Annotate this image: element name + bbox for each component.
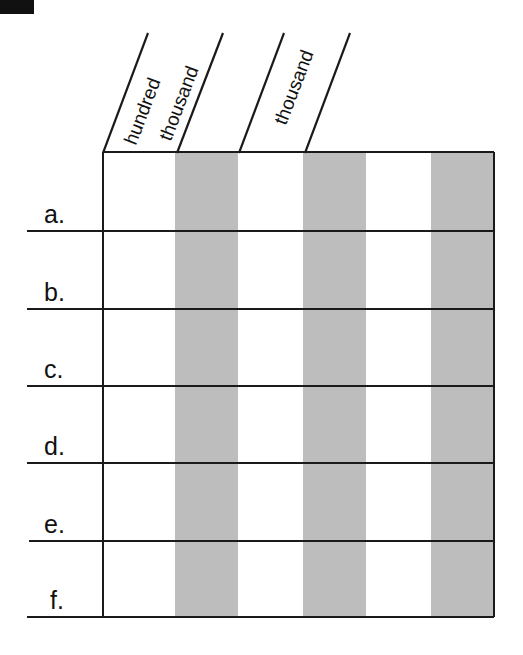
row-label-e: e. <box>44 510 65 539</box>
row-label-d: d. <box>44 432 65 461</box>
row-label-c: c. <box>44 355 63 384</box>
row-label-f: f. <box>50 586 64 615</box>
shaded-column <box>303 153 366 616</box>
place-value-grid <box>0 0 523 655</box>
row-label-b: b. <box>44 278 65 307</box>
shaded-column <box>175 153 238 616</box>
row-label-a: a. <box>44 200 65 229</box>
shaded-column <box>431 153 494 616</box>
